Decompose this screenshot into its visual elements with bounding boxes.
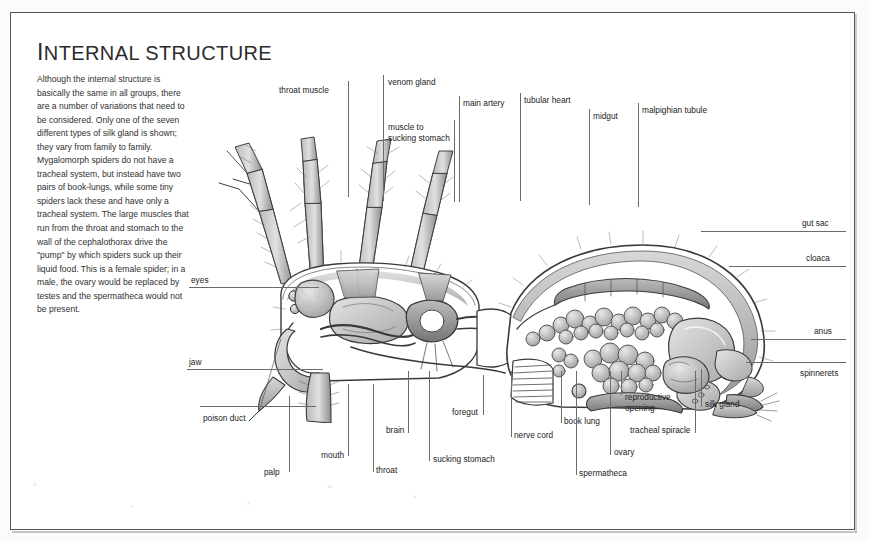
label-venom-gland: venom gland: [388, 77, 436, 87]
leader-silk-gland: [701, 369, 702, 407]
label-silk-gland: silk gland: [705, 399, 740, 409]
leader-cloaca: [729, 266, 846, 267]
label-throat: throat: [376, 465, 397, 475]
label-mouth: mouth: [321, 450, 344, 460]
leader-nerve-cord: [511, 371, 512, 437]
leader-spinnerets: [746, 362, 846, 363]
label-foregut: foregut: [452, 407, 478, 417]
leader-midgut: [589, 109, 590, 205]
paper-speckle: [247, 502, 250, 505]
label-ovary: ovary: [614, 447, 634, 457]
spider-anatomy-illustration: [161, 133, 781, 423]
label-anus: anus: [814, 326, 832, 336]
label-jaw: jaw: [189, 357, 201, 367]
label-throat-muscle: throat muscle: [279, 85, 329, 95]
leader-tubular-heart: [520, 93, 521, 201]
page-background: INTERNAL STRUCTURE Although the internal…: [0, 0, 869, 541]
label-tubular-heart: tubular heart: [524, 95, 571, 105]
leader-venom-gland: [383, 75, 384, 201]
leader-gut-sac: [701, 231, 846, 232]
label-main-artery: main artery: [463, 98, 505, 108]
label-cloaca: cloaca: [806, 253, 830, 263]
leader-foregut: [483, 375, 484, 415]
label-reproductive-opening: reproductive opening: [625, 392, 687, 413]
label-malpighian-tubule: malpighian tubule: [642, 105, 707, 115]
leader-throat-muscle: [348, 81, 349, 197]
label-gut-sac: gut sac: [802, 218, 829, 228]
leader-brain: [408, 371, 409, 433]
label-sucking-stomach: sucking stomach: [433, 454, 495, 464]
paper-speckle: [327, 485, 332, 488]
page-sheet: INTERNAL STRUCTURE Although the internal…: [10, 12, 855, 530]
leader-muscle-to-sucking-stomach: [454, 120, 455, 202]
leader-poison-duct: [200, 406, 316, 407]
leader-anus: [751, 339, 846, 340]
page-title: INTERNAL STRUCTURE: [37, 39, 272, 66]
leader-reproductive-opening: [621, 371, 622, 395]
leader-ovary: [610, 371, 611, 455]
paper-speckle: [413, 495, 416, 499]
label-palp: palp: [264, 467, 280, 477]
leader-jaw: [187, 369, 323, 370]
page-title-initial: I: [37, 39, 44, 65]
leader-mouth: [348, 384, 349, 456]
label-brain: brain: [386, 425, 404, 435]
leader-throat: [373, 384, 374, 472]
page-title-rest: NTERNAL STRUCTURE: [44, 42, 272, 64]
paper-speckle: [131, 505, 134, 508]
label-spinnerets: spinnerets: [800, 368, 838, 378]
page-shadow-right: [855, 14, 857, 532]
leader-main-artery: [459, 96, 460, 202]
leader-book-lung: [561, 371, 562, 423]
leader-malpighian-tubule: [638, 103, 639, 207]
leader-eyes: [189, 287, 319, 288]
paper-speckle: [33, 483, 37, 486]
label-nerve-cord: nerve cord: [514, 430, 553, 440]
leader-sucking-stomach: [429, 371, 430, 461]
label-tracheal-spiracle: tracheal spiracle: [630, 425, 690, 435]
page-shadow-bottom: [12, 531, 857, 533]
label-eyes: eyes: [191, 275, 209, 285]
label-poison-duct: poison duct: [203, 413, 245, 423]
label-muscle-to-sucking-stomach: muscle to sucking stomach: [388, 122, 452, 143]
label-book-lung: book lung: [564, 416, 600, 426]
leader-palp: [289, 396, 290, 472]
leader-spermatheca: [576, 371, 577, 475]
label-spermatheca: spermatheca: [579, 468, 627, 478]
label-midgut: midgut: [593, 111, 618, 121]
leader-tracheal-spiracle: [695, 371, 696, 433]
